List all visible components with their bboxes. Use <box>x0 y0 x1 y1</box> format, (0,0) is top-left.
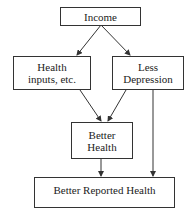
edge-income-to-health-inputs <box>77 25 101 55</box>
node-better-health-line1: Better <box>89 129 116 141</box>
node-income: Income <box>60 7 141 26</box>
node-income-label: Income <box>84 11 117 23</box>
edge-health-inputs-to-better-health <box>80 90 101 121</box>
node-better-reported-health: Better Reported Health <box>34 177 175 208</box>
node-health-inputs-line2: inputs, etc. <box>28 73 76 85</box>
edge-less-depression-to-better-health <box>108 90 126 121</box>
node-health-inputs: Health inputs, etc. <box>13 56 91 90</box>
node-better-reported-health-label: Better Reported Health <box>53 184 155 196</box>
edge-income-to-less-depression <box>101 25 130 55</box>
node-health-inputs-line1: Health <box>37 61 66 73</box>
node-less-depression-line2: Depression <box>123 73 173 85</box>
node-better-health: Better Health <box>71 122 133 159</box>
node-better-health-line2: Health <box>87 141 116 153</box>
node-less-depression-line1: Less <box>138 61 158 73</box>
node-less-depression: Less Depression <box>112 56 184 90</box>
